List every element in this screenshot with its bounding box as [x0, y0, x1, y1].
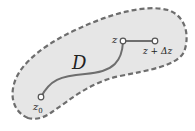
point-label-z: z	[112, 34, 117, 45]
region-label-D: D	[72, 52, 86, 73]
point-z-plus-dz	[152, 38, 158, 44]
diagram-svg	[0, 0, 195, 131]
diagram-canvas: D z z + Δz z0	[0, 0, 195, 131]
point-z0	[38, 94, 44, 100]
point-z	[120, 38, 126, 44]
point-label-z0-subscript: 0	[38, 107, 42, 115]
point-label-z0: z0	[33, 101, 43, 115]
point-label-z-plus-dz: z + Δz	[143, 46, 172, 56]
